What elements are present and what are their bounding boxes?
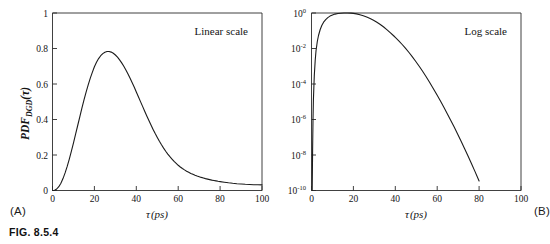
- ylabel-arg: (τ): [19, 87, 32, 100]
- y-tick-label: 10-10: [288, 184, 306, 196]
- figure-caption: FIG. 8.5.4: [9, 226, 59, 238]
- panel-b-marker: (B): [534, 205, 550, 217]
- panel-b-y-tick-labels: 100 10-2 10-4 10-6 10-8 10-10: [288, 7, 307, 197]
- panel-b-axes: [312, 13, 522, 191]
- panel-b-x-axis-title: τ(ps): [405, 208, 427, 221]
- y-tick-label: 0.6: [36, 80, 48, 90]
- y-tick-label: 10-2: [291, 42, 306, 54]
- x-tick-label: 80: [474, 194, 484, 204]
- x-tick-label: 60: [432, 194, 442, 204]
- panel-b-frame: [312, 13, 522, 191]
- ylabel-subscript: DGD: [25, 99, 34, 118]
- panel-b-curve: [312, 13, 479, 191]
- x-tick-label: 0: [309, 194, 314, 204]
- y-tick-label: 100: [293, 7, 306, 19]
- panel-b-scale-annotation: Log scale: [465, 25, 508, 37]
- panel-b-x-tick-labels: 0 20 40 60 80 100: [309, 194, 528, 204]
- panel-a-x-axis-title: τ(ps): [146, 208, 168, 221]
- x-tick-label: 60: [173, 194, 183, 204]
- panel-b-x-tickmarks: [312, 186, 522, 191]
- x-tick-label: 0: [50, 194, 55, 204]
- panel-a-y-axis-label: PDFDGD(τ): [19, 87, 34, 140]
- linear-scale-plot: PDFDGD(τ): [0, 0, 270, 222]
- panel-a-linear-scale: PDFDGD(τ): [0, 0, 270, 222]
- panel-a-y-tickmarks: [53, 13, 58, 191]
- ylabel-main: PDF: [19, 117, 31, 140]
- panel-a-y-tick-labels: 0 0.2 0.4 0.6 0.8 1: [36, 9, 48, 197]
- y-tick-label: 1: [43, 9, 48, 19]
- y-tick-label: 10-6: [291, 113, 307, 125]
- x-tick-label: 40: [132, 194, 142, 204]
- svg-text:PDFDGD(τ): PDFDGD(τ): [19, 87, 34, 140]
- x-tick-label: 80: [215, 194, 225, 204]
- y-tick-label: 0.4: [36, 115, 48, 125]
- panel-a-curve: [53, 52, 263, 191]
- y-tick-label: 0: [43, 186, 48, 196]
- panel-a-x-tickmarks: [53, 186, 263, 191]
- y-tick-label: 10-8: [291, 149, 306, 161]
- x-tick-label: 20: [90, 194, 100, 204]
- y-tick-label: 10-4: [291, 78, 307, 90]
- panel-a-x-tick-labels: 0 20 40 60 80 100: [50, 194, 269, 204]
- x-tick-label: 20: [349, 194, 359, 204]
- panel-a-scale-annotation: Linear scale: [195, 25, 249, 37]
- panel-a-marker: (A): [10, 205, 26, 217]
- panel-b-log-scale: 0 20 40 60 80 100 100 10-2 10-4 10-: [262, 0, 539, 222]
- x-tick-label: 100: [514, 194, 529, 204]
- y-tick-label: 0.8: [36, 44, 48, 54]
- log-scale-plot: 0 20 40 60 80 100 100 10-2 10-4 10-: [262, 0, 539, 222]
- y-tick-label: 0.2: [36, 151, 48, 161]
- x-tick-label: 40: [391, 194, 401, 204]
